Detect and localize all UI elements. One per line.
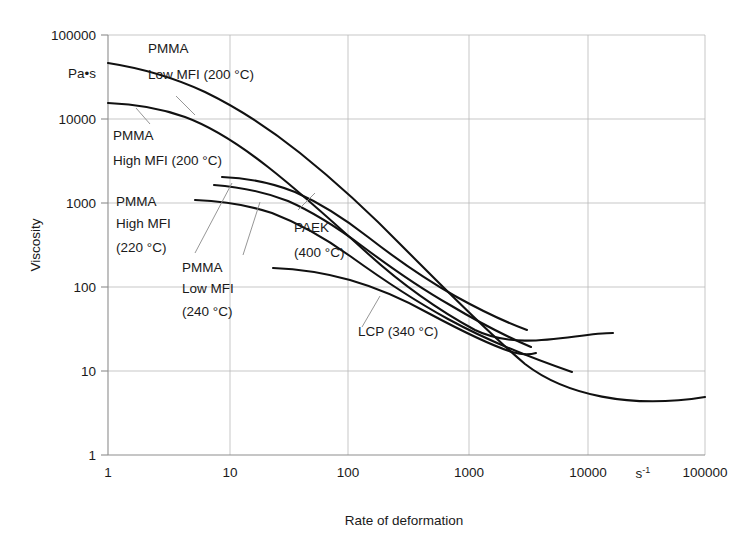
label-pmma-high-mfi-200c-line1: PMMA [113,128,154,143]
label-paek-400c-line2: (400 °C) [294,245,344,260]
y-tick-label-10000: 10000 [58,112,96,127]
x-tick-label-10000: 10000 [569,465,607,480]
label-paek-400c-line1: PAEK [294,220,329,235]
label-pmma-high-mfi-220c-line3: (220 °C) [116,240,166,255]
viscosity-vs-rate-of-deformation-chart: 100000 10000 1000 100 10 1 Pa•s Viscosit… [0,0,755,552]
label-lcp-340c-line1: LCP (340 °C) [358,324,438,339]
y-tick-label-100000: 100000 [51,28,96,43]
y-tick-label-1000: 1000 [66,196,96,211]
label-pmma-low-mfi-240c-line3: (240 °C) [182,304,232,319]
x-axis-title: Rate of deformation [345,513,464,528]
x-tick-label-1000: 1000 [454,465,484,480]
x-tick-label-100: 100 [337,465,360,480]
x-tick-label-100000: 100000 [682,465,727,480]
chart-svg: 100000 10000 1000 100 10 1 Pa•s Viscosit… [0,0,755,552]
label-pmma-low-mfi-200c-line1: PMMA [148,41,189,56]
y-axis-title: Viscosity [28,218,43,271]
y-tick-label-100: 100 [73,280,96,295]
x-tick-label-1: 1 [104,465,112,480]
label-pmma-low-mfi-240c-line1: PMMA [182,260,223,275]
label-pmma-high-mfi-200c-line2: High MFI (200 °C) [113,153,222,168]
label-pmma-high-mfi-220c-line1: PMMA [116,194,157,209]
x-axis-unit-exponent: -1 [642,465,650,475]
label-pmma-low-mfi-200c-line2: Low MFI (200 °C) [148,67,254,82]
x-tick-label-10: 10 [222,465,237,480]
y-tick-label-1: 1 [88,448,96,463]
y-tick-label-10: 10 [81,364,96,379]
label-pmma-high-mfi-220c-line2: High MFI [116,216,171,231]
y-axis-unit-label: Pa•s [68,66,96,81]
label-pmma-low-mfi-240c-line2: Low MFI [182,281,234,296]
